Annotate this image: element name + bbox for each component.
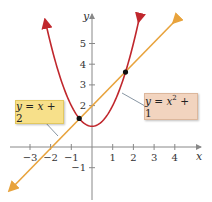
- x-tick-label: 2: [130, 152, 136, 163]
- intersection-point: [123, 70, 128, 75]
- x-axis-label: x: [196, 150, 203, 163]
- y-tick-label: 2: [80, 100, 86, 111]
- eq-sign: =: [22, 100, 37, 112]
- y-axis-label: y: [82, 10, 90, 23]
- x-tick-label: 3: [151, 152, 157, 163]
- y-tick-label: 5: [80, 38, 86, 49]
- x-tick-label: 1: [110, 152, 116, 163]
- y-axis: −1 2 3 4 5 y: [71, 10, 95, 200]
- parabola-label-pointer: [122, 93, 145, 106]
- y-tick-label: 4: [80, 59, 86, 70]
- y-tick-label: −1: [71, 162, 86, 173]
- intersection-point: [77, 116, 82, 121]
- x-tick-label: 4: [172, 152, 178, 163]
- y-tick-label: 3: [80, 79, 86, 90]
- line-equation-label: y = x + 2: [15, 100, 64, 124]
- parabola-equation-label: y = x2 + 1: [144, 93, 198, 120]
- graph-figure: −3 −2 −1 1 2 3 4 x −1 2 3 4 5 y: [0, 0, 212, 202]
- eq-sign: =: [151, 95, 166, 107]
- x-tick-label: −3: [23, 152, 38, 163]
